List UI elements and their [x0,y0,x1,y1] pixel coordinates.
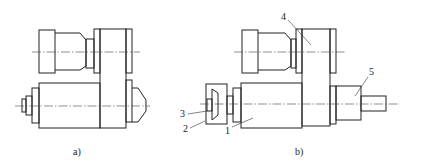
upper-spindle-body-a [55,33,86,70]
lower-nose-b [227,96,233,114]
gearbox-cover-lower-a [126,80,132,122]
gearbox-housing-a [100,29,126,128]
gear-plate-a [94,29,100,73]
lower-spindle-tip-a [22,99,26,112]
upper-spindle-neck-a [86,39,94,68]
caption-a: a) [73,146,81,158]
subfigure-b: 3 2 1 4 5 b) [180,11,400,158]
gearbox-housing-b [302,29,330,126]
caption-b: b) [295,146,303,158]
gearbox-cover-lower-b [330,86,336,124]
part-label-2: 2 [183,123,188,134]
leader-3 [188,111,207,114]
motor-end-cap-a [132,88,146,122]
gear-plate-b [296,29,302,73]
part-label-5: 5 [369,66,374,77]
upper-spindle-body-b [258,33,291,70]
upper-spindle-flange-b [242,30,258,73]
lower-spindle-nose-a [26,96,32,115]
tool-cone-b [212,89,218,120]
upper-spindle-flange-a [39,30,55,73]
gearbox-cover-upper-a [126,29,132,73]
gearbox-cover-upper-b [330,29,336,73]
lower-collar-b [233,88,241,122]
mechanical-diagram: a) 3 2 1 4 5 [0,0,426,167]
subfigure-a: a) [15,29,150,158]
lower-spindle-collar-a [32,88,39,123]
part-label-1: 1 [225,125,230,136]
leader-2 [190,121,205,128]
extension-shaft-b [361,96,386,111]
upper-spindle-neck-b [291,39,296,68]
lower-body-b [241,83,302,128]
tool-insert-b [207,99,212,111]
extension-housing-b [336,86,361,120]
lower-spindle-body-a [39,83,100,128]
part-label-3: 3 [180,108,185,119]
part-label-4: 4 [281,11,286,22]
